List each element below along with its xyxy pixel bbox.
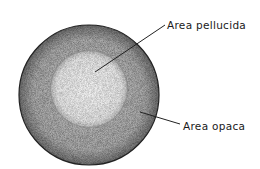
area-pellucida-region xyxy=(51,51,128,128)
blastoderm-diagram: Area pellucida Area opaca xyxy=(0,0,260,169)
area-pellucida-label: Area pellucida xyxy=(167,19,246,31)
area-opaca-label: Area opaca xyxy=(183,120,245,132)
